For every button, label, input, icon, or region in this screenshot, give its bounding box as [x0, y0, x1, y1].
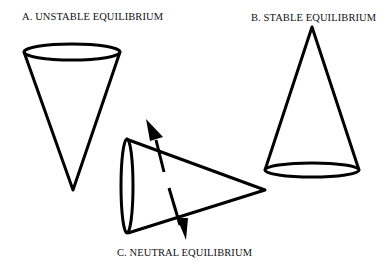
arrowhead-up-icon [146, 119, 163, 141]
label-unstable-equilibrium: A. UNSTABLE EQUILIBRIUM [22, 11, 163, 22]
arrowhead-down-icon [177, 218, 188, 240]
cone-stable [265, 27, 359, 177]
equilibrium-diagram: A. UNSTABLE EQUILIBRIUM B. STABLE EQUILI… [0, 0, 391, 270]
diagram-drawing [0, 0, 391, 270]
label-stable-equilibrium: B. STABLE EQUILIBRIUM [251, 12, 376, 23]
cone-unstable [24, 44, 120, 190]
label-neutral-equilibrium: C. NEUTRAL EQUILIBRIUM [117, 247, 252, 258]
cone-neutral [121, 139, 265, 233]
